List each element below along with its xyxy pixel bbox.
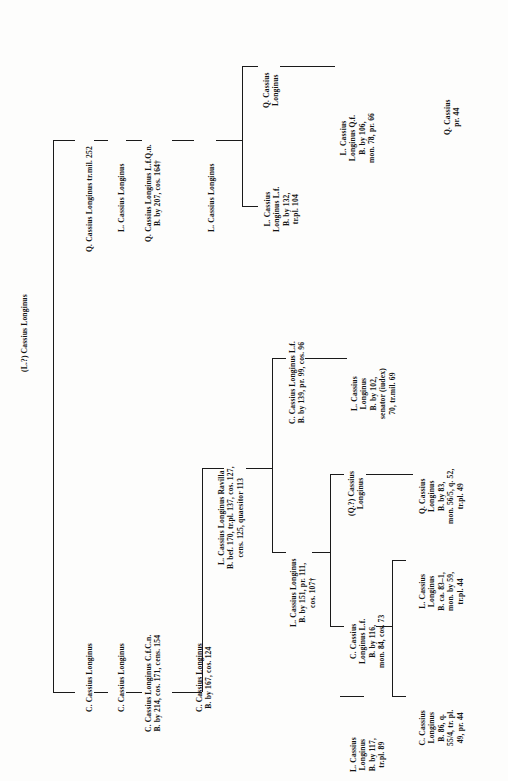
node-l-trpl89-line-2: B. by 117,: [368, 737, 377, 772]
connector-bracket-to-c-lf-cos96: [272, 358, 286, 359]
node-c-lf-cos73-line-3: mon. 84, cos. 73: [377, 615, 386, 668]
node-l-trpl44-line-0: L. Cassius: [418, 572, 427, 611]
node-l-trpl44: L. Cassius Longinus B. ca. 83–1, mon. by…: [418, 572, 465, 611]
node-q-trpl49-line-0: Q. Cassius: [418, 468, 427, 524]
node-q-trpl49-line-4: tr.pl. 49: [456, 468, 465, 524]
node-q-question-line-0: (Q.?) Cassius: [347, 471, 356, 516]
stemma-figure: (L.?) Cassius Longinus Q. Cassius Longin…: [0, 0, 508, 781]
node-q-cos164: Q. Cassius Longinus L.f.Q.n. B. by 207, …: [144, 144, 163, 242]
node-q-pr44-line-1: pr. 44: [452, 99, 461, 135]
node-c-plain-b: C. Cassius Longinus: [117, 643, 126, 712]
connector-l-to-q164: [126, 140, 142, 141]
connector-qquestion-to-qtrpl49: [366, 474, 413, 475]
connector-root-to-c-line: [53, 692, 75, 693]
node-l-trpl44-line-2: B. ca. 83–1,: [437, 572, 446, 611]
node-l-lf-trpl104: L. Cassius Longinus L.f. B. by 132, tr.p…: [263, 186, 301, 232]
connector-c-a-to-c-b: [94, 692, 108, 693]
node-c-pr44-line-4: 49, pr. 44: [456, 710, 465, 746]
node-ravilla-line-2: cens. 125, quaesitor 113: [236, 466, 245, 569]
node-l-qf-pr66: L. Cassius Longinus Q.f. B. by 106, mon.…: [339, 113, 377, 163]
connector-bracket-to-q-question: [330, 474, 344, 475]
connector-to-q-trmil252: [53, 140, 75, 141]
connector-q252-to-l: [94, 140, 108, 141]
bracket-ccos73-sons: [392, 560, 393, 696]
node-l-trpl44-line-3: mon. by 59,: [446, 572, 455, 611]
node-c-lf-cos73-line-2: B. by 116,: [368, 615, 377, 668]
node-q-cos164-line-0: Q. Cassius Longinus L.f.Q.n.: [144, 144, 153, 242]
connector-bracket-to-c-pr44: [392, 696, 406, 697]
node-root: (L.?) Cassius Longinus: [20, 294, 29, 372]
node-l-plain-b-line-0: L. Cassius Longinus: [207, 164, 216, 232]
node-c-pr44-line-3: 55/4, tr. pl.: [446, 710, 455, 746]
node-l-plain-a: L. Cassius Longinus: [117, 164, 126, 232]
node-ravilla-line-1: B. bef. 170, tr.pl. 137, cos. 127,: [226, 466, 235, 569]
node-l-trpl44-line-4: tr.pl. 44: [456, 572, 465, 611]
connector-ccos96-to-iudex: [305, 358, 347, 359]
node-l-trpl44-line-1: Longinus: [427, 572, 436, 611]
node-l-iudex70: L. Cassius Longinus B. by 102, senator (…: [350, 368, 397, 419]
node-q-pr44-line-0: Q. Cassius: [443, 99, 452, 135]
connector-bracket-to-l-lf: [242, 206, 258, 207]
connector-q164-to-l2: [172, 140, 194, 141]
node-c-lf-cos73: C. Cassius Longinus L.f. B. by 116, mon.…: [349, 615, 387, 668]
connector-l2-to-bracket: [216, 140, 242, 141]
node-c-cos124-line-1: B. by 167, cos. 124: [204, 643, 213, 712]
connector-bracket-to-q-short: [242, 66, 258, 67]
node-l-iudex70-line-4: 70, tr.mil. 69: [388, 368, 397, 419]
node-l-qf-line-2: B. by 106,: [358, 113, 367, 163]
connector-bracket-to-l-cos107: [272, 552, 286, 553]
node-c-cos124-line-0: C. Cassius Longinus: [195, 643, 204, 712]
node-l-cos107-line-2: cos. 107†: [308, 559, 317, 627]
bracket-lcos107-sons: [330, 474, 331, 626]
connector-root-spine: [53, 352, 54, 692]
node-c-lf-cos96-line-0: C. Cassius Longinus L.f.: [288, 341, 297, 424]
node-l-qf-line-3: mon. 78, pr. 66: [367, 113, 376, 163]
node-ravilla-line-0: L. Cassius Longinus Ravilla: [217, 466, 226, 569]
node-q-short-line-1: Longinus: [271, 72, 280, 108]
node-l-trpl89-line-1: Longinus: [358, 737, 367, 772]
node-l-lf-line-1: Longinus L.f.: [272, 186, 281, 232]
node-q-trpl49: Q. Cassius Longinus B. by 83, mon. 56/5,…: [418, 468, 465, 524]
node-l-qf-line-1: Longinus Q.f.: [348, 113, 357, 163]
node-l-lf-line-0: L. Cassius: [263, 186, 272, 232]
connector-c-b-to-c-cens154: [126, 692, 142, 693]
node-c-cens154-line-0: C. Cassius Longinus C.f.C.n.: [144, 635, 153, 732]
node-q-trmil252: Q. Cassius Longinus tr.mil. 252: [85, 146, 94, 252]
node-q-trpl49-line-1: Longinus: [427, 468, 436, 524]
connector-upper-spine: [53, 140, 54, 352]
node-c-pr44-line-2: B. 86, q.: [437, 710, 446, 746]
node-q-trpl49-line-3: mon. 56/5, q. 52,: [446, 468, 455, 524]
node-l-iudex70-line-3: senator (iudex): [378, 368, 387, 419]
node-l-lf-line-2: B. by 132,: [282, 186, 291, 232]
connector-ltrpl89-to-cchain: [340, 696, 364, 697]
node-c-cens154-line-1: B. by 214, cos. 171, cens. 154: [153, 635, 162, 732]
node-l-trpl89-line-3: tr.pl. 89: [377, 737, 386, 772]
connector-qshort-to-lqf: [280, 66, 335, 67]
node-l-qf-line-0: L. Cassius: [339, 113, 348, 163]
node-c-plain-a: C. Cassius Longinus: [85, 643, 94, 712]
node-l-iudex70-line-2: B. by 102,: [369, 368, 378, 419]
node-c-cos124: C. Cassius Longinus B. by 167, cos. 124: [195, 643, 214, 712]
node-l-iudex70-line-1: Longinus: [359, 368, 368, 419]
node-q-cassius-longinus-short: Q. Cassius Longinus: [262, 72, 281, 108]
node-l-lf-line-3: tr.pl. 104: [291, 186, 300, 232]
node-c-cens154: C. Cassius Longinus C.f.C.n. B. by 214, …: [144, 635, 163, 732]
node-q-short-line-0: Q. Cassius: [262, 72, 271, 108]
node-l-plain-b: L. Cassius Longinus: [207, 164, 216, 232]
node-l-trpl89-line-0: L. Cassius: [349, 737, 358, 772]
node-q-trmil252-line-0: Q. Cassius Longinus tr.mil. 252: [85, 146, 94, 252]
node-c-plain-b-line-0: C. Cassius Longinus: [117, 643, 126, 712]
node-q-question-line-1: Longinus: [356, 471, 365, 516]
connector-ravilla-to-bracket: [246, 468, 272, 469]
node-c-lf-cos73-line-0: C. Cassius: [349, 615, 358, 668]
node-root-line-0: (L.?) Cassius Longinus: [20, 294, 29, 372]
bracket-ravilla-sons: [272, 358, 273, 552]
node-c-pr44-line-0: C. Cassius: [418, 710, 427, 746]
node-c-lf-cos96-line-1: B. by 139, pr. 99, cos. 96: [297, 341, 306, 424]
connector-lcos107-to-bracket: [312, 552, 330, 553]
node-q-cos164-line-1: B. by 207, cos. 164†: [153, 144, 162, 242]
node-q-question: (Q.?) Cassius Longinus: [347, 471, 366, 516]
node-q-cassius-pr44: Q. Cassius pr. 44: [443, 99, 462, 135]
node-l-cos107: L. Cassius Longinus B. by 151, pr. 111, …: [289, 559, 317, 627]
node-l-plain-a-line-0: L. Cassius Longinus: [117, 164, 126, 232]
